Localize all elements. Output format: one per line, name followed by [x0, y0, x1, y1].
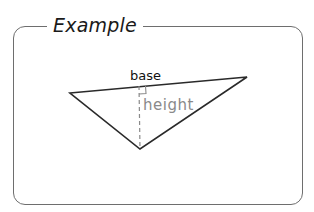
height-line — [139, 86, 140, 149]
height-label: height — [143, 96, 194, 114]
triangle-diagram: base height — [0, 0, 314, 212]
base-label: base — [130, 68, 161, 83]
